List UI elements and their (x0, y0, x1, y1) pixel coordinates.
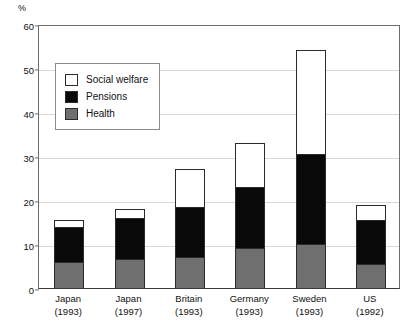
bar-slot (356, 26, 386, 288)
category-year: (1993) (219, 306, 279, 319)
stacked-bar[interactable] (235, 143, 265, 288)
bar-segment-health (236, 249, 264, 288)
square-swatch-icon (65, 91, 78, 103)
y-axis-tick-mark (35, 289, 39, 290)
category-year: (1992) (340, 306, 400, 319)
bar-segment-pensions (236, 188, 264, 249)
category-name: US (363, 293, 376, 304)
y-axis-tick-label: 10 (23, 241, 34, 252)
bar-segment-pensions (297, 155, 325, 245)
bar-segment-health (116, 260, 144, 288)
y-axis-tick-label: 30 (23, 153, 34, 164)
category-year: (1993) (279, 306, 339, 319)
y-axis-tick-label: 20 (23, 197, 34, 208)
legend-item-label: Social welfare (86, 74, 148, 85)
category-name: Germany (230, 293, 269, 304)
bar-segment-welfare (297, 51, 325, 154)
bar-segment-pensions (55, 228, 83, 263)
y-axis-unit-label: % (18, 3, 26, 13)
stacked-bar[interactable] (356, 205, 386, 288)
legend-item-pensions[interactable]: Pensions (65, 88, 148, 105)
category-name: Japan (116, 293, 142, 304)
category-year: (1993) (38, 306, 98, 319)
legend-item-label: Health (86, 108, 115, 119)
bar-segment-pensions (176, 208, 204, 258)
category-year: (1997) (98, 306, 158, 319)
square-swatch-icon (65, 74, 78, 86)
bar-slot (175, 26, 205, 288)
bar-segment-health (55, 263, 83, 288)
category-name: Britain (175, 293, 202, 304)
bar-segment-welfare (116, 210, 144, 219)
bar-segment-health (297, 245, 325, 288)
stacked-bar[interactable] (54, 220, 84, 288)
x-axis-category-label: Sweden(1993) (279, 293, 339, 318)
bar-segment-welfare (55, 221, 83, 228)
bar-segment-pensions (357, 221, 385, 264)
y-axis-tick-label: 40 (23, 109, 34, 120)
bar-slot (296, 26, 326, 288)
bar-segment-welfare (236, 144, 264, 188)
category-name: Japan (55, 293, 81, 304)
stacked-bar[interactable] (296, 50, 326, 288)
x-axis-category-label: Japan(1993) (38, 293, 98, 318)
bar-slot (235, 26, 265, 288)
x-axis-category-label: Japan(1997) (98, 293, 158, 318)
category-year: (1993) (159, 306, 219, 319)
x-axis-category-label: Germany(1993) (219, 293, 279, 318)
bar-segment-health (176, 258, 204, 288)
x-axis-category-label: Britain(1993) (159, 293, 219, 318)
bar-segment-health (357, 265, 385, 288)
y-axis-tick-label: 0 (29, 285, 34, 296)
category-name: Sweden (292, 293, 326, 304)
bar-segment-pensions (116, 219, 144, 260)
legend-item-label: Pensions (86, 91, 127, 102)
x-axis-category-label: US(1992) (340, 293, 400, 318)
stacked-bar[interactable] (115, 209, 145, 288)
chart-legend: Social welfarePensionsHealth (55, 63, 160, 130)
y-axis-tick-label: 60 (23, 21, 34, 32)
chart-figure: % 0102030405060 Japan(1993)Japan(1997)Br… (0, 0, 413, 328)
square-swatch-icon (65, 108, 78, 120)
stacked-bar[interactable] (175, 169, 205, 288)
bar-segment-welfare (176, 170, 204, 207)
bar-segment-welfare (357, 206, 385, 221)
y-axis-tick-label: 50 (23, 65, 34, 76)
legend-item-health[interactable]: Health (65, 105, 148, 122)
legend-item-welfare[interactable]: Social welfare (65, 71, 148, 88)
